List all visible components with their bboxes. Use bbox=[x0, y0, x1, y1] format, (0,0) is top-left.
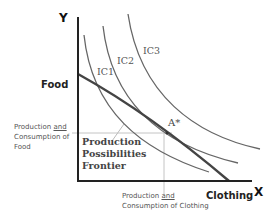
x-axis-name: Clothing bbox=[206, 190, 253, 201]
y-axis-letter: Y bbox=[59, 11, 68, 25]
food-annotation-prefix: Production bbox=[14, 123, 53, 131]
ppf-label-line-3: Frontier bbox=[82, 160, 152, 172]
optimum-point-label: A* bbox=[168, 117, 180, 128]
food-annotation-and: and bbox=[53, 123, 66, 131]
ppf-label-line-2: Possibilities bbox=[82, 148, 152, 160]
food-annotation: Production and Consumption of Food bbox=[14, 122, 72, 152]
ic3-label: IC3 bbox=[143, 45, 160, 56]
ic2-label: IC2 bbox=[117, 55, 134, 66]
ic1-label: IC1 bbox=[97, 66, 114, 77]
clothing-annotation-prefix: Production bbox=[122, 192, 161, 200]
clothing-annotation-and: and bbox=[161, 192, 174, 200]
x-axis-letter: X bbox=[254, 185, 263, 199]
ic3-curve bbox=[128, 14, 260, 149]
y-axis-name: Food bbox=[41, 79, 68, 90]
ppf-diagram: Y X Food Clothing IC1 IC2 IC3 A* Product… bbox=[0, 0, 272, 220]
optimum-point bbox=[166, 132, 169, 135]
food-annotation-suffix: Consumption of Food bbox=[14, 133, 69, 151]
ppf-label: Production Possibilities Frontier bbox=[82, 136, 152, 172]
clothing-annotation: Production and Consumption of Clothing bbox=[122, 191, 212, 211]
diagram-canvas bbox=[0, 0, 272, 220]
ppf-label-line-1: Production bbox=[82, 136, 152, 148]
clothing-annotation-suffix: Consumption of Clothing bbox=[122, 202, 209, 210]
